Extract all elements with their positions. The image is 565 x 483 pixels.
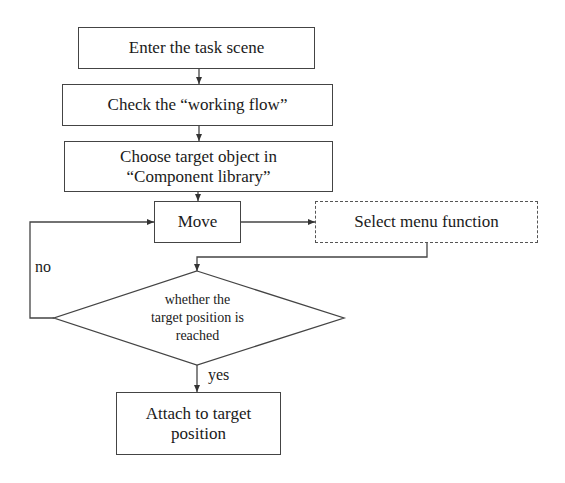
step-choose-label-line2: “Component library” bbox=[127, 167, 271, 187]
decision-text: whether the target position is reached bbox=[110, 291, 285, 345]
step-select-menu-label: Select menu function bbox=[354, 212, 498, 232]
step-check-working-flow: Check the “working flow” bbox=[62, 84, 333, 126]
step-select-menu-function: Select menu function bbox=[315, 201, 538, 243]
decision-line2: target position is bbox=[110, 309, 285, 327]
edge-label-no: no bbox=[35, 258, 51, 276]
step-attach-label-line2: position bbox=[171, 424, 226, 444]
step-attach-label-line1: Attach to target bbox=[146, 404, 251, 424]
step-move-label: Move bbox=[178, 212, 218, 232]
step-choose-label-line1: Choose target object in bbox=[120, 147, 277, 167]
step-enter-task-scene: Enter the task scene bbox=[78, 27, 315, 69]
arrow-select-to-decision bbox=[197, 243, 427, 271]
step-enter-label: Enter the task scene bbox=[129, 38, 264, 58]
decision-line3: reached bbox=[110, 327, 285, 345]
step-choose-target-object: Choose target object in “Component libra… bbox=[64, 141, 333, 192]
decision-line1: whether the bbox=[110, 291, 285, 309]
step-attach-to-target: Attach to target position bbox=[116, 392, 281, 455]
edge-label-yes: yes bbox=[208, 366, 229, 384]
step-check-label: Check the “working flow” bbox=[108, 95, 288, 115]
step-move: Move bbox=[154, 201, 241, 243]
